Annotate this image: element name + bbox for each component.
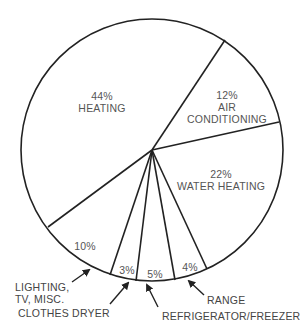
heating-percent: 44% (76, 90, 128, 102)
range-percent: 4% (180, 261, 200, 273)
arrow-fridge-icon (147, 285, 158, 307)
range-callout: RANGE (207, 294, 245, 306)
water-heating-label: 22% WATER HEATING (172, 168, 270, 192)
lighting-callout-line2: TV, MISC. (15, 293, 69, 305)
ac-name-line1: AIR (184, 101, 270, 113)
lighting-percent: 10% (72, 240, 98, 252)
ac-name-line2: CONDITIONING (184, 113, 270, 125)
lighting-callout: LIGHTING, TV, MISC. (15, 281, 69, 305)
lighting-callout-line1: LIGHTING, (15, 281, 69, 293)
fridge-callout: REFRIGERATOR/FREEZER (162, 310, 300, 322)
fridge-percent: 5% (145, 268, 165, 280)
dryer-percent: 3% (117, 264, 137, 276)
heating-label: 44% HEATING (76, 90, 128, 114)
dryer-callout: CLOTHES DRYER (18, 307, 110, 319)
water-heating-name: WATER HEATING (172, 180, 270, 192)
arrow-lighting-icon (72, 270, 89, 282)
heating-name: HEATING (76, 102, 128, 114)
arrow-dryer-icon (110, 283, 128, 304)
arrow-range-icon (189, 281, 204, 295)
water-heating-percent: 22% (172, 168, 270, 180)
ac-label: 12% AIR CONDITIONING (184, 89, 270, 125)
ac-percent: 12% (184, 89, 270, 101)
